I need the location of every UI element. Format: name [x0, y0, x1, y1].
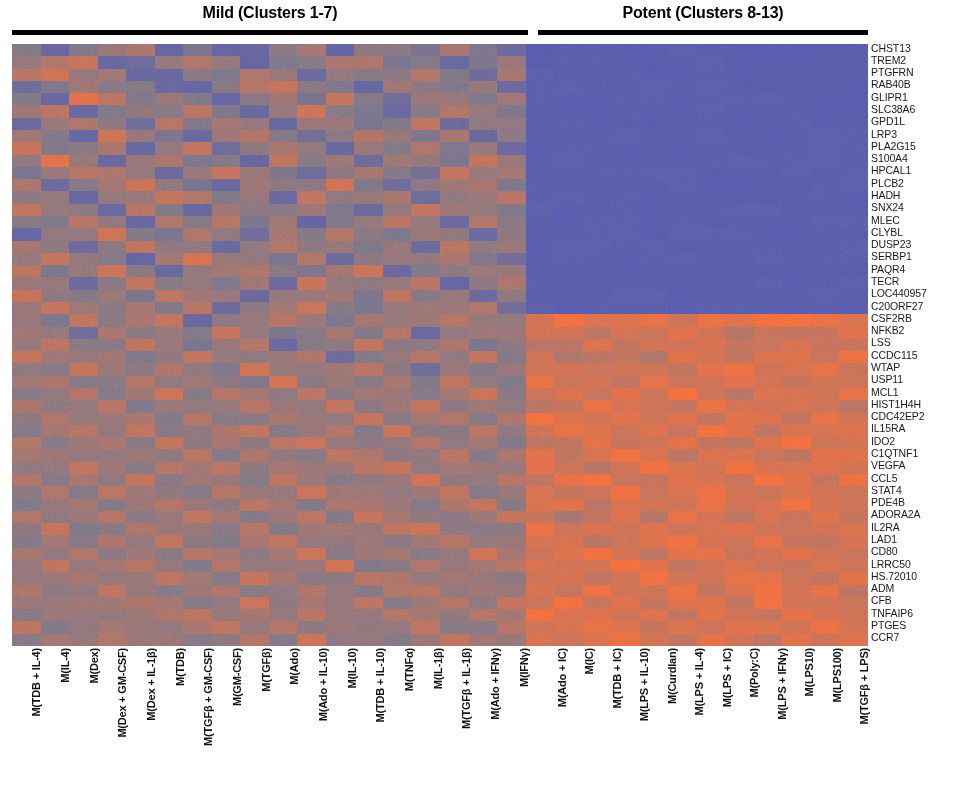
- heatmap-cell: [811, 142, 840, 154]
- heatmap-cell: [782, 118, 811, 130]
- heatmap-cell: [126, 511, 155, 523]
- heatmap-cell: [240, 449, 269, 461]
- heatmap-cell: [183, 191, 212, 203]
- heatmap-cell: [183, 142, 212, 154]
- heatmap-cell: [12, 290, 41, 302]
- heatmap-cell: [326, 339, 355, 351]
- heatmap-cell: [611, 277, 640, 289]
- gene-label: HS.72010: [871, 571, 917, 582]
- heatmap-cell: [611, 363, 640, 375]
- sample-label: M(Ado): [288, 648, 300, 685]
- heatmap-cell: [297, 523, 326, 535]
- gene-label: LAD1: [871, 534, 897, 545]
- heatmap-cell: [469, 425, 498, 437]
- heatmap-cell: [782, 191, 811, 203]
- heatmap-cell: [98, 142, 127, 154]
- heatmap-cell: [554, 44, 583, 56]
- heatmap-cell: [240, 241, 269, 253]
- sample-label: M(IFNγ): [518, 648, 530, 687]
- heatmap-cell: [69, 69, 98, 81]
- heatmap-cell: [668, 339, 697, 351]
- heatmap-cell: [668, 511, 697, 523]
- heatmap-cell: [98, 499, 127, 511]
- heatmap-cell: [69, 548, 98, 560]
- heatmap-cell: [640, 572, 669, 584]
- heatmap-cell: [811, 241, 840, 253]
- heatmap-cell: [839, 388, 868, 400]
- heatmap-cell: [69, 523, 98, 535]
- heatmap-cell: [269, 191, 298, 203]
- heatmap-cell: [469, 486, 498, 498]
- heatmap-cell: [183, 179, 212, 191]
- heatmap-cell: [326, 118, 355, 130]
- heatmap-cell: [69, 535, 98, 547]
- sample-label: M(Dex): [88, 648, 100, 683]
- heatmap-cell: [269, 290, 298, 302]
- heatmap-cell: [69, 388, 98, 400]
- sample-label: M(Ado + IC): [556, 648, 568, 707]
- heatmap-cell: [668, 437, 697, 449]
- heatmap-cell: [440, 400, 469, 412]
- heatmap-cell: [440, 339, 469, 351]
- heatmap-cell: [297, 118, 326, 130]
- heatmap-cell: [126, 339, 155, 351]
- heatmap-cell: [668, 179, 697, 191]
- heatmap-cell: [839, 179, 868, 191]
- heatmap-cell: [212, 388, 241, 400]
- heatmap-cell: [98, 474, 127, 486]
- heatmap-cell: [526, 69, 555, 81]
- gene-label: CCR7: [871, 632, 899, 643]
- heatmap-cell: [839, 314, 868, 326]
- heatmap-cell: [640, 216, 669, 228]
- heatmap-cell: [440, 523, 469, 535]
- heatmap-cell: [554, 499, 583, 511]
- heatmap-cell: [41, 167, 70, 179]
- heatmap-cell: [469, 105, 498, 117]
- heatmap-cell: [183, 130, 212, 142]
- heatmap-cell: [326, 44, 355, 56]
- heatmap-cell: [640, 523, 669, 535]
- heatmap-cell: [611, 81, 640, 93]
- heatmap-cell: [754, 241, 783, 253]
- heatmap-cell: [725, 130, 754, 142]
- heatmap-cell: [98, 585, 127, 597]
- heatmap-cell: [240, 609, 269, 621]
- heatmap-cell: [668, 130, 697, 142]
- heatmap-cell: [782, 462, 811, 474]
- heatmap-cell: [41, 216, 70, 228]
- gene-label: C20ORF27: [871, 301, 923, 312]
- gene-label-column: CHST13TREM2PTGFRNRAB40BGLIPR1SLC38A6GPD1…: [871, 44, 953, 646]
- heatmap-cell: [383, 339, 412, 351]
- heatmap-cell: [326, 130, 355, 142]
- heatmap-cell: [411, 535, 440, 547]
- sample-label: M(IL-4): [59, 648, 71, 683]
- heatmap-cell: [640, 339, 669, 351]
- heatmap-cell: [782, 413, 811, 425]
- heatmap-cell: [183, 523, 212, 535]
- heatmap-cell: [98, 191, 127, 203]
- heatmap-cell: [668, 351, 697, 363]
- sample-label: M(Ado + IFNγ): [489, 648, 501, 720]
- heatmap-cell: [640, 179, 669, 191]
- heatmap-cell: [554, 167, 583, 179]
- heatmap-cell: [640, 93, 669, 105]
- heatmap-cell: [183, 511, 212, 523]
- heatmap-cell: [354, 105, 383, 117]
- heatmap-cell: [12, 462, 41, 474]
- heatmap-cell: [782, 142, 811, 154]
- heatmap-cell: [526, 449, 555, 461]
- heatmap-cell: [212, 449, 241, 461]
- heatmap-cell: [440, 241, 469, 253]
- heatmap-cell: [183, 535, 212, 547]
- heatmap-cell: [526, 93, 555, 105]
- heatmap-cell: [155, 179, 184, 191]
- heatmap-cell: [240, 339, 269, 351]
- heatmap-cell: [383, 413, 412, 425]
- heatmap-cell: [611, 376, 640, 388]
- heatmap-cell: [12, 425, 41, 437]
- heatmap-cell: [554, 449, 583, 461]
- heatmap-cell: [69, 609, 98, 621]
- heatmap-cell: [697, 548, 726, 560]
- heatmap-cell: [12, 548, 41, 560]
- heatmap-cell: [754, 277, 783, 289]
